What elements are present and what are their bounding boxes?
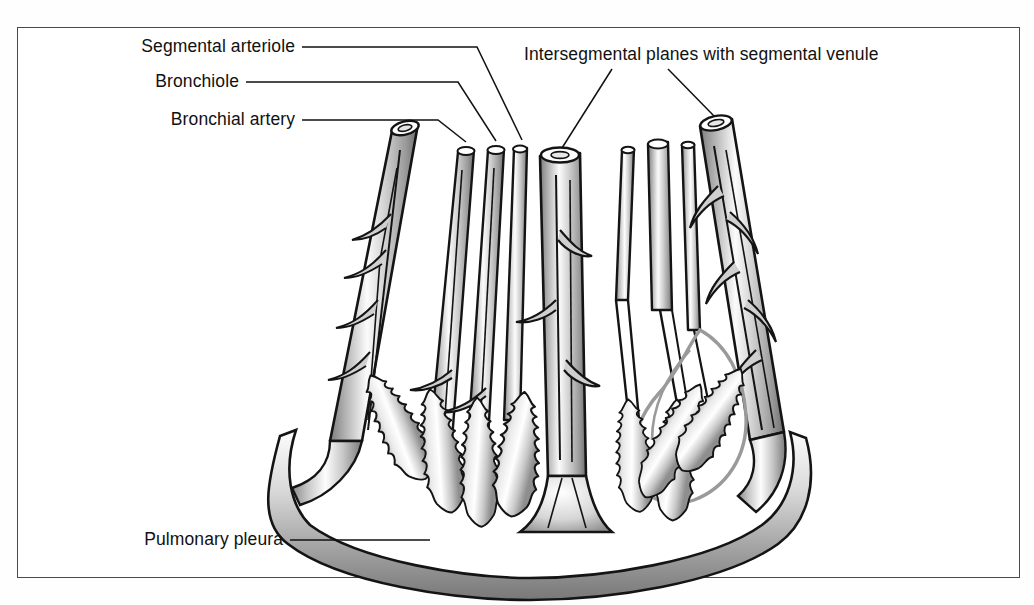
alveolar-sac (489, 390, 547, 519)
label-pulmonary-pleura: Pulmonary pleura (40, 531, 283, 549)
label-bronchial-artery: Bronchial artery (40, 111, 295, 129)
leader-intersegmental-left (562, 69, 612, 148)
leader-intersegmental-right (668, 69, 714, 116)
leader-bronchial-artery (302, 120, 466, 142)
label-intersegmental-planes: Intersegmental planes with segmental ven… (524, 46, 879, 64)
label-segmental-arteriole: Segmental arteriole (40, 38, 295, 56)
segmental-arteriole-tube-outer (504, 146, 527, 420)
figure-root: Segmental arteriole Bronchiole Bronchial… (0, 0, 1034, 605)
segmental-arteriole-tube (468, 146, 505, 440)
alveolar-sac (457, 397, 501, 528)
label-bronchiole: Bronchiole (40, 73, 239, 91)
right-bundle-tube-c (682, 142, 713, 420)
